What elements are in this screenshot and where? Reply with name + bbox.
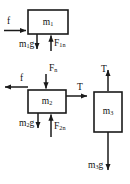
force-label-tension-m2: T (77, 82, 83, 92)
force-label-weight-m3: m3g (88, 160, 103, 170)
free-body-diagram: m1 f m1g F1n m2 f Fn T m2g F2n m3 T (0, 0, 130, 184)
block-m3-label-sub: 3 (110, 110, 113, 117)
force-label-weight-m2: m2g (19, 118, 34, 128)
force-label-normal-m1: F1n (54, 38, 65, 48)
force-label-friction-m2: f (20, 73, 24, 83)
block-m1-label-sub: 1 (50, 20, 53, 27)
force-label-friction-m1: f (7, 16, 11, 26)
diagram-canvas: m1 f m1g F1n m2 f Fn T m2g F2n m3 T (0, 0, 130, 184)
block-m2-label-sub: 2 (49, 100, 52, 107)
force-label-normal-top-m2: Fn (49, 63, 57, 73)
force-label-normal-m2: F2n (54, 121, 65, 131)
force-label-tension-m3: T (101, 64, 107, 74)
force-label-weight-m1: m1g (19, 39, 34, 49)
